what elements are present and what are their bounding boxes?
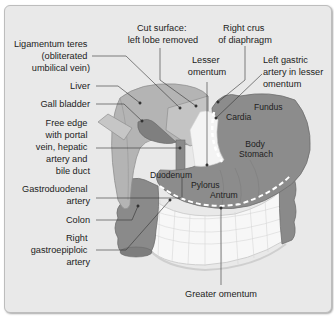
label-lesser-omentum: Lesser omentum — [188, 55, 227, 77]
label-right-gastroepiploic-artery: Right gastroepiploic artery — [31, 233, 91, 267]
anatomy-diagram: Ligamentum teres (obliterated umbilical … — [0, 0, 334, 317]
label-pylorus: Pylorus — [191, 180, 220, 190]
label-body: Body — [245, 139, 265, 149]
label-cut-surface: Cut surface: left lobe removed — [128, 23, 198, 45]
label-greater-omentum: Greater omentum — [185, 289, 257, 299]
label-right-crus: Right crus of diaphragm — [218, 23, 272, 45]
label-cardia: Cardia — [226, 112, 252, 122]
label-stomach: Stomach — [239, 149, 273, 159]
label-free-edge: Free edge with portal vein, hepatic arte… — [36, 118, 91, 176]
label-duodenum: Duodenum — [150, 170, 192, 180]
label-gastroduodenal-artery: Gastroduodenal artery — [22, 184, 90, 206]
label-left-gastric-artery: Left gastric artery in lesser omentum — [263, 55, 326, 89]
label-liver: Liver — [70, 81, 90, 91]
label-antrum: Antrum — [210, 190, 238, 200]
label-ligamentum-teres: Ligamentum teres (obliterated umbilical … — [14, 39, 90, 73]
label-colon: Colon — [66, 215, 90, 225]
label-gall-bladder: Gall bladder — [40, 99, 90, 109]
label-fundus: Fundus — [254, 102, 283, 112]
